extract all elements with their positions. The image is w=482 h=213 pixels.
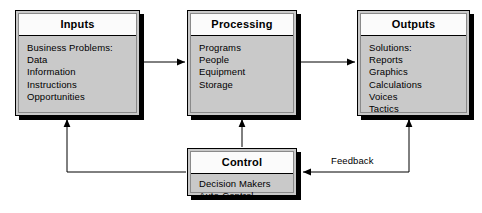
list-item: Tactics bbox=[369, 103, 466, 115]
node-control-title: Control bbox=[191, 152, 293, 174]
node-processing-title: Processing bbox=[191, 14, 293, 36]
node-control-body: Decision Makers Auto-Control bbox=[191, 174, 293, 202]
node-processing[interactable]: Processing Programs People Equipment Sto… bbox=[187, 10, 297, 116]
node-outputs[interactable]: Outputs Solutions: Reports Graphics Calc… bbox=[357, 10, 470, 116]
list-item: Data bbox=[27, 54, 136, 66]
list-item: Programs bbox=[199, 42, 293, 54]
list-item: Calculations bbox=[369, 79, 466, 91]
node-processing-inner: Processing Programs People Equipment Sto… bbox=[190, 13, 294, 113]
list-item: Opportunities bbox=[27, 91, 136, 103]
list-item: Equipment bbox=[199, 66, 293, 78]
node-outputs-body: Solutions: Reports Graphics Calculations… bbox=[361, 36, 466, 115]
list-item: Reports bbox=[369, 54, 466, 66]
node-outputs-title: Outputs bbox=[361, 14, 466, 36]
node-outputs-inner: Outputs Solutions: Reports Graphics Calc… bbox=[360, 13, 467, 113]
list-item: Storage bbox=[199, 79, 293, 91]
node-inputs-body: Business Problems: Data Information Inst… bbox=[19, 36, 136, 112]
list-item: Graphics bbox=[369, 66, 466, 78]
list-item: People bbox=[199, 54, 293, 66]
diagram-canvas: Inputs Business Problems: Data Informati… bbox=[0, 0, 482, 213]
connector-control-to-inputs bbox=[67, 119, 186, 172]
list-item: Information bbox=[27, 66, 136, 78]
node-control[interactable]: Control Decision Makers Auto-Control bbox=[187, 148, 297, 196]
list-item: Auto-Control bbox=[199, 190, 293, 202]
node-inputs-inner: Inputs Business Problems: Data Informati… bbox=[18, 13, 137, 113]
list-item: Business Problems: bbox=[27, 42, 136, 54]
node-processing-body: Programs People Equipment Storage bbox=[191, 36, 293, 112]
list-item: Decision Makers bbox=[199, 178, 293, 190]
list-item: Voices bbox=[369, 91, 466, 103]
node-control-inner: Control Decision Makers Auto-Control bbox=[190, 151, 294, 193]
list-item: Instructions bbox=[27, 79, 136, 91]
list-item: Solutions: bbox=[369, 42, 466, 54]
feedback-label: Feedback bbox=[331, 155, 374, 167]
node-inputs[interactable]: Inputs Business Problems: Data Informati… bbox=[15, 10, 140, 116]
node-inputs-title: Inputs bbox=[19, 14, 136, 36]
